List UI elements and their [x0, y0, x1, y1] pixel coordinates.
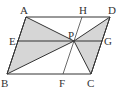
label-e: E [9, 35, 16, 47]
label-h: H [79, 4, 87, 16]
label-f: F [59, 77, 65, 89]
label-a: A [20, 4, 28, 16]
shaded-triangle-abp [7, 17, 74, 74]
label-d: D [108, 4, 116, 16]
label-p: P [68, 29, 74, 41]
label-c: C [87, 77, 94, 89]
parallelogram-diagram: A H D E P G B F C [0, 0, 124, 89]
label-b: B [1, 77, 8, 89]
label-g: G [104, 35, 112, 47]
